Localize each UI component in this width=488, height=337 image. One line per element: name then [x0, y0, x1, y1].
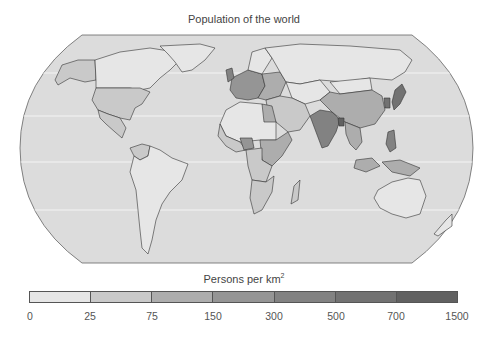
legend-ticks: 0 25 75 150 300 500 700 1500 [0, 310, 488, 324]
legend-color-scale [29, 291, 458, 303]
legend-tick: 0 [27, 310, 33, 322]
legend-tick: 500 [327, 310, 345, 322]
legend-bin-5 [336, 292, 397, 302]
region-korea [384, 98, 390, 108]
legend-title: Persons per km2 [0, 272, 488, 285]
legend-tick: 25 [84, 310, 96, 322]
legend-tick: 75 [146, 310, 158, 322]
legend-bin-6 [397, 292, 457, 302]
legend-tick: 700 [387, 310, 405, 322]
legend-bin-1 [91, 292, 152, 302]
legend-tick: 300 [265, 310, 283, 322]
legend-bin-3 [213, 292, 274, 302]
world-population-map [0, 0, 488, 337]
legend-bin-4 [275, 292, 336, 302]
legend-tick: 1500 [445, 310, 468, 322]
legend-bin-0 [30, 292, 91, 302]
legend-tick: 150 [204, 310, 222, 322]
region-russia [265, 44, 412, 84]
region-bangladesh [338, 118, 344, 126]
legend-bin-2 [152, 292, 213, 302]
